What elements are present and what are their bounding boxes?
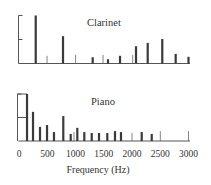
harmonic-bar [147,43,149,64]
harmonic-bar [53,132,55,141]
harmonic-spectrum-chart: Clarinet Piano 050010001500200025003000 … [0,0,211,185]
harmonic-bar [132,55,133,64]
x-tick-label: 1000 [66,149,85,159]
piano-title: Piano [91,96,115,107]
x-tick-label: 2000 [123,149,142,159]
harmonic-bar [62,36,64,63]
harmonic-bar [39,127,41,141]
harmonic-bar [35,16,37,64]
harmonic-bar [107,59,109,63]
harmonic-bar [75,55,76,64]
harmonic-bar [92,57,94,63]
x-axis-tick-labels: 050010001500200025003000 [17,149,199,159]
harmonic-bar [98,133,100,141]
x-tick-label: 3000 [179,149,198,159]
harmonic-bar [106,133,108,141]
harmonic-bar [74,132,75,141]
harmonic-bar [46,125,48,141]
clarinet-title: Clarinet [87,17,121,28]
harmonic-bar [151,134,153,141]
x-tick-label: 0 [17,149,22,159]
harmonic-bar [70,134,72,141]
x-tick-label: 500 [40,149,55,159]
harmonic-bar [76,128,78,141]
harmonic-bar [135,46,137,63]
harmonic-bar [132,133,133,141]
harmonic-bar [103,55,104,64]
harmonic-bar [62,116,64,141]
harmonic-bar [160,131,161,141]
harmonic-bar [119,56,121,64]
harmonic-bar [120,132,122,141]
harmonic-bar [188,131,189,141]
harmonic-bar [32,112,34,141]
harmonic-bar [83,132,85,141]
harmonic-bar [114,131,116,141]
harmonic-bar [141,132,143,141]
x-tick-label: 1500 [94,149,113,159]
x-tick-label: 2500 [151,149,170,159]
harmonic-bar [26,94,28,141]
x-axis-label: Frequency (Hz) [66,164,129,176]
harmonic-bar [161,39,163,63]
harmonic-bar [175,54,177,64]
harmonic-bar [91,133,93,141]
harmonic-bar [187,57,189,64]
harmonic-bar [47,56,48,64]
